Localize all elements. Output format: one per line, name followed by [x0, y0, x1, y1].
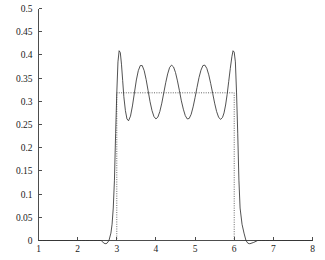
x-tick-label: 4 — [154, 244, 159, 254]
y-tick-label: 0.2 — [21, 143, 33, 153]
y-tick-label: 0 — [28, 236, 33, 246]
y-tick-label: 0.05 — [16, 213, 33, 223]
x-tick-label: 6 — [232, 244, 237, 254]
x-tick-label: 3 — [114, 244, 119, 254]
x-tick-label: 2 — [75, 244, 80, 254]
x-tick-label: 5 — [193, 244, 198, 254]
y-tick-label: 0.5 — [21, 4, 33, 14]
chart-plot-area: 00.050.10.150.20.250.30.350.40.450.5 123… — [0, 0, 325, 260]
series-rectangular-pulse — [39, 93, 313, 241]
y-tick-label: 0.25 — [16, 120, 33, 130]
y-tick-label: 0.3 — [21, 97, 33, 107]
chart-figure: 00.050.10.150.20.250.30.350.40.450.5 123… — [0, 0, 325, 260]
x-tick-label: 7 — [271, 244, 276, 254]
x-axis-tick-labels: 12345678 — [36, 244, 315, 254]
x-tick-label: 1 — [36, 244, 41, 254]
y-tick-label: 0.15 — [16, 166, 33, 176]
y-tick-label: 0.45 — [16, 27, 33, 37]
series-fourier-partial-sum — [39, 51, 313, 244]
y-tick-label: 0.35 — [16, 74, 33, 84]
y-tick-label: 0.4 — [21, 50, 33, 60]
y-tick-label: 0.1 — [21, 190, 33, 200]
x-tick-label: 8 — [310, 244, 315, 254]
y-axis-tick-labels: 00.050.10.150.20.250.30.350.40.450.5 — [16, 4, 33, 246]
